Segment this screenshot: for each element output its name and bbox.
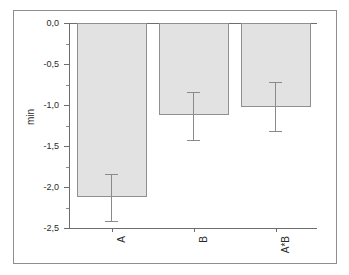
x-tick-B (194, 228, 195, 232)
x-tick-A (112, 228, 113, 232)
error-bar-cap-lower-A (105, 221, 118, 222)
y-tick-label-4: -2,0 (43, 183, 59, 192)
error-bar-line-AxB (275, 82, 276, 131)
y-tick-label-3: -1,5 (43, 142, 59, 151)
error-bar-cap-upper-AxB (269, 82, 282, 83)
y-tick-label-2: -1,0 (43, 101, 59, 110)
plot-area: 0,0 -0,5 -1,0 -1,5 -2,0 -2,5 (69, 23, 316, 228)
y-tick-major-0: 0,0 (64, 23, 69, 24)
y-tick-major-2: -1,0 (64, 105, 69, 106)
y-tick-label-0: 0,0 (46, 19, 59, 28)
x-axis-label-B: B (199, 236, 209, 243)
error-bar-line-B (193, 92, 194, 140)
y-tick-minor-3 (66, 167, 69, 168)
bar-AxB[interactable] (241, 23, 311, 107)
x-tick-AxB (276, 228, 277, 232)
error-bar-cap-upper-A (105, 174, 118, 175)
error-bar-cap-upper-B (187, 92, 200, 93)
y-tick-major-3: -1,5 (64, 146, 69, 147)
error-bar-line-A (111, 174, 112, 221)
x-axis-ticks-group: A B A*B (69, 228, 316, 275)
x-axis-label-AxB: A*B (281, 236, 291, 253)
y-axis-label: min (26, 109, 36, 125)
y-tick-major-1: -0,5 (64, 64, 69, 65)
bar-B[interactable] (159, 23, 229, 115)
y-tick-major-4: -2,0 (64, 187, 69, 188)
chart-figure: min 0,0 -0,5 -1,0 -1,5 -2,0 -2,5 (0, 0, 349, 275)
bar-A[interactable] (77, 23, 147, 197)
x-axis-label-A: A (117, 236, 127, 243)
error-bar-cap-lower-AxB (269, 131, 282, 132)
y-tick-label-1: -0,5 (43, 60, 59, 69)
y-tick-label-5: -2,5 (43, 224, 59, 233)
error-bar-cap-lower-B (187, 140, 200, 141)
y-tick-minor-2 (66, 126, 69, 127)
y-tick-minor-1 (66, 85, 69, 86)
y-tick-minor-4 (66, 208, 69, 209)
y-tick-minor-0 (66, 44, 69, 45)
